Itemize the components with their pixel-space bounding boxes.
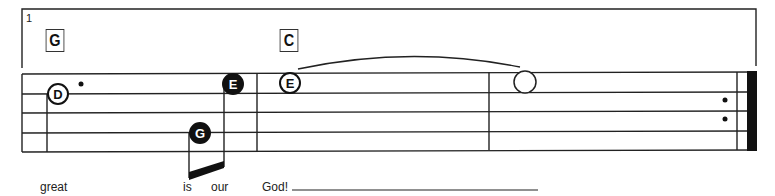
- note-e-open: E: [279, 72, 301, 94]
- note-e-filled: E: [222, 73, 244, 95]
- ending-number: 1: [26, 12, 32, 24]
- lyric-is: is: [183, 180, 192, 194]
- chord-c: C: [280, 29, 299, 52]
- lyric-great: great: [40, 180, 67, 194]
- beam: [189, 161, 224, 180]
- chord-g: G: [46, 29, 65, 52]
- lyric-our: our: [211, 180, 228, 194]
- note-g: G: [189, 122, 211, 144]
- staff-graphics: [0, 0, 775, 196]
- augmentation-dot: [79, 82, 84, 87]
- final-thick-barline: [747, 71, 757, 151]
- repeat-dot-upper: [723, 98, 728, 103]
- repeat-dot-lower: [723, 117, 728, 122]
- note-d: D: [47, 83, 69, 105]
- lyric-god: God!: [262, 180, 288, 194]
- whole-note: [514, 71, 536, 93]
- staff-lines: [22, 72, 757, 152]
- tie-arc: [298, 56, 520, 69]
- first-ending-bracket: [22, 9, 756, 68]
- music-score: 1 G C D G E E great is our God!: [0, 0, 775, 196]
